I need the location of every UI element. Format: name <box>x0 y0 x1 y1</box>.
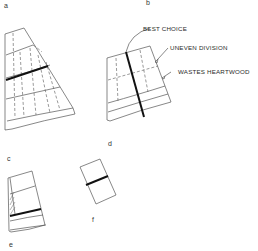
panel-label-f: f <box>92 216 94 223</box>
panel-label-c: c <box>7 155 11 162</box>
panel-label-e: e <box>9 241 13 248</box>
panel-label-a: a <box>4 2 8 9</box>
annotation-uneven-division: UNEVEN DIVISION <box>170 44 228 51</box>
panel-label-d: d <box>108 140 112 147</box>
wedge-figure-c <box>5 28 75 130</box>
panel-label-b: b <box>146 0 150 6</box>
annotation-best-choice: BEST CHOICE <box>143 25 187 32</box>
hatch-pattern <box>10 192 15 215</box>
annotation-wastes-heartwood: WASTES HEARTWOOD <box>178 68 250 75</box>
wedge-figure-e <box>8 171 46 232</box>
block-figure-f <box>80 159 116 204</box>
diagram-canvas: a b c d e f BE <box>0 0 258 251</box>
wedge-figure-d <box>107 28 171 121</box>
